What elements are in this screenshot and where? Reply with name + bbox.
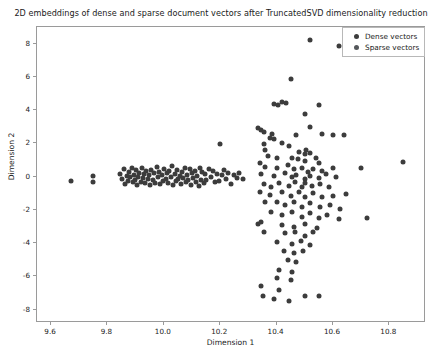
data-point (261, 229, 266, 234)
data-point (223, 177, 228, 182)
data-point (91, 180, 96, 185)
data-point (316, 176, 321, 181)
data-point (280, 222, 285, 227)
data-point (281, 249, 286, 254)
x-tick-label: 10.4 (268, 327, 284, 336)
data-point (280, 189, 285, 194)
data-point (333, 175, 338, 180)
data-point (323, 172, 328, 177)
x-tick-mark (163, 322, 164, 325)
data-point (274, 239, 279, 244)
data-point (280, 212, 285, 217)
data-point (287, 299, 292, 304)
y-axis-label: Dimension 2 (7, 122, 16, 192)
data-point (274, 156, 279, 161)
data-point (308, 242, 313, 247)
data-point (234, 175, 239, 180)
data-point (290, 270, 295, 275)
data-point (308, 173, 313, 178)
data-point (276, 103, 281, 108)
y-tick-mark (33, 142, 36, 143)
data-point (326, 185, 331, 190)
data-point (302, 294, 307, 299)
x-tick-mark (106, 322, 107, 325)
y-tick-mark (33, 242, 36, 243)
data-point (308, 151, 313, 156)
data-point (330, 133, 335, 138)
data-point (261, 142, 266, 147)
data-point (285, 163, 290, 168)
data-point (319, 194, 324, 199)
legend-item-dense[interactable]: Dense vectors (347, 31, 419, 42)
data-point (288, 277, 293, 282)
data-point (285, 257, 290, 262)
data-point (316, 160, 321, 165)
data-point (316, 216, 321, 221)
data-point (330, 193, 335, 198)
data-point (277, 267, 282, 272)
data-point (319, 132, 324, 137)
scatter-plot-figure: 2D embeddings of dense and sparse docume… (0, 0, 442, 353)
legend-item-sparse[interactable]: Sparse vectors (347, 42, 419, 53)
data-point (204, 178, 209, 183)
data-point (263, 200, 268, 205)
data-point (343, 192, 348, 197)
data-point (295, 157, 300, 162)
data-point (283, 202, 288, 207)
y-tick-label: 2 (25, 138, 30, 147)
x-tick-mark (332, 322, 333, 325)
data-points-layer (37, 27, 424, 321)
data-point (302, 195, 307, 200)
data-point (308, 38, 313, 43)
data-point (274, 276, 279, 281)
legend-label-sparse: Sparse vectors (365, 43, 419, 52)
data-point (297, 190, 302, 195)
legend-label-dense: Dense vectors (365, 32, 417, 41)
y-tick-mark (33, 109, 36, 110)
data-point (301, 248, 306, 253)
circle-marker-sparse-icon (347, 45, 365, 50)
data-point (209, 175, 214, 180)
data-point (268, 210, 273, 215)
data-point (288, 76, 293, 81)
plot-axes-area (36, 26, 425, 322)
data-point (290, 242, 295, 247)
data-point (291, 251, 296, 256)
x-tick-label: 9.6 (44, 327, 55, 336)
x-tick-mark (276, 322, 277, 325)
data-point (292, 180, 297, 185)
x-tick-label: 9.8 (101, 327, 112, 336)
data-point (311, 191, 316, 196)
y-tick-mark (33, 43, 36, 44)
data-point (257, 160, 262, 165)
data-point (336, 44, 341, 49)
x-tick-label: 10.6 (324, 327, 340, 336)
data-point (364, 216, 369, 221)
y-tick-label: 8 (25, 38, 30, 47)
data-point (299, 214, 304, 219)
x-tick-label: 10.8 (380, 327, 396, 336)
data-point (266, 153, 271, 158)
data-point (260, 293, 265, 298)
y-tick-label: 6 (25, 71, 30, 80)
chart-legend: Dense vectors Sparse vectors (342, 27, 425, 57)
y-tick-label: -2 (23, 204, 30, 213)
data-point (309, 183, 314, 188)
data-point (311, 167, 316, 172)
data-point (259, 283, 264, 288)
data-point (259, 219, 264, 224)
x-tick-mark (219, 322, 220, 325)
x-tick-label: 10.0 (155, 327, 171, 336)
data-point (294, 173, 299, 178)
data-point (308, 211, 313, 216)
data-point (328, 202, 333, 207)
data-point (302, 233, 307, 238)
data-point (261, 129, 266, 134)
data-point (240, 176, 245, 181)
y-tick-label: 0 (25, 171, 30, 180)
data-point (237, 171, 242, 176)
data-point (338, 207, 343, 212)
data-point (192, 168, 197, 173)
data-point (297, 149, 302, 154)
data-point (299, 165, 304, 170)
